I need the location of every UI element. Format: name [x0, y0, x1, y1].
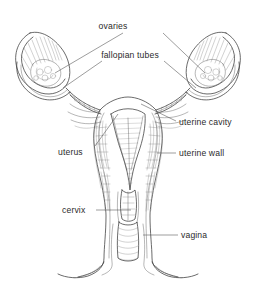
label-ovaries: ovaries [99, 21, 128, 31]
label-uterine-cavity: uterine cavity [179, 117, 232, 127]
label-cervix: cervix [62, 205, 86, 215]
label-uterine-wall: uterine wall [179, 148, 224, 158]
anatomy-figure: ovaries fallopian tubes uterine cavity u… [0, 0, 256, 294]
reproductive-system-illustration: ovaries fallopian tubes uterine cavity u… [0, 0, 256, 294]
label-uterus: uterus [58, 147, 83, 157]
label-vagina: vagina [181, 230, 207, 240]
label-fallopian-tubes: fallopian tubes [101, 50, 159, 60]
